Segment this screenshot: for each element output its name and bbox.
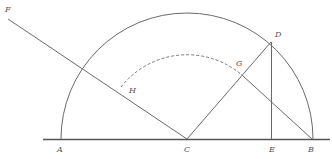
label-e: E — [268, 145, 275, 154]
label-d: D — [274, 30, 282, 39]
dashed-arc — [121, 55, 243, 87]
label-b: B — [307, 145, 314, 154]
label-g: G — [236, 59, 243, 68]
line-gb — [243, 76, 312, 139]
line-fc — [8, 19, 187, 139]
label-f: F — [4, 5, 11, 14]
label-c: C — [184, 145, 190, 154]
label-h: H — [128, 86, 137, 95]
geometric-diagram: F D G H A C E B — [0, 0, 332, 159]
label-a: A — [56, 145, 63, 154]
